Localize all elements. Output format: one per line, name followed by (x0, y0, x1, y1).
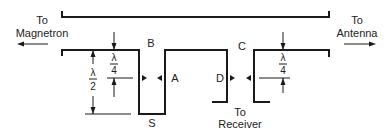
receiver-label-line1: To (234, 106, 246, 118)
half-wave-arrow-down-icon (91, 107, 96, 114)
quarter-wave-left-denominator: 4 (111, 65, 117, 76)
antenna-arrow-right-icon (369, 42, 376, 47)
half-wave-lambda: λ (91, 67, 96, 78)
gap-marker-d-side-icon (230, 75, 235, 81)
quarter-wave-right-arrow-up-icon (281, 78, 286, 85)
quarter-wave-left-lambda: λ (112, 52, 117, 63)
upper-waveguide-wall (62, 11, 329, 17)
quarter-wave-right-arrow-down-icon (281, 43, 286, 50)
gap-marker-b-side-icon (142, 75, 147, 81)
half-wave-arrow-up-icon (91, 50, 96, 57)
duplexer-diagram: λ 2 λ 4 λ 4 B A S C D To Magnetron To An… (0, 0, 388, 133)
quarter-wave-left-arrow-up-icon (112, 78, 117, 85)
gap-marker-a-side-icon (157, 75, 162, 81)
gap-marker-c-side-icon (246, 75, 251, 81)
lower-waveguide-wall-left (62, 50, 227, 114)
half-wave-denominator: 2 (90, 81, 96, 92)
label-c: C (238, 40, 246, 52)
quarter-wave-right-denominator: 4 (280, 65, 286, 76)
label-s: S (148, 117, 155, 129)
magnetron-label-line1: To (36, 14, 48, 26)
label-d: D (216, 72, 224, 84)
antenna-label-line1: To (351, 14, 363, 26)
label-a: A (171, 72, 179, 84)
magnetron-arrow-left-icon (17, 42, 24, 47)
antenna-label-line2: Antenna (337, 27, 379, 39)
label-b: B (147, 37, 154, 49)
receiver-label-line2: Receiver (218, 118, 262, 130)
quarter-wave-right-lambda: λ (281, 52, 286, 63)
quarter-wave-left-arrow-down-icon (112, 43, 117, 50)
magnetron-label-line2: Magnetron (16, 27, 69, 39)
lower-waveguide-wall-right (254, 50, 329, 102)
